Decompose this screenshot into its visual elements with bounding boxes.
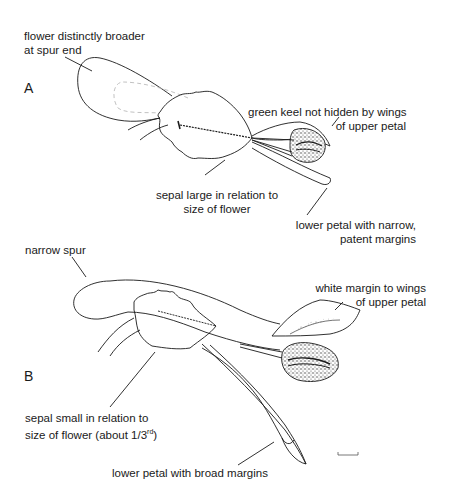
spur-b	[74, 281, 128, 319]
label-b-sepal: sepal small in relation tosize of flower…	[25, 411, 157, 442]
sepal-a	[158, 91, 252, 158]
panel-letter-a: A	[24, 80, 33, 96]
keel-b	[282, 343, 339, 382]
scale-bar	[338, 452, 358, 455]
label-a-lower-petal: lower petal with narrow,patent margins	[290, 218, 416, 246]
spur-a-inner-dashed	[114, 82, 188, 113]
sepal-b	[134, 290, 216, 349]
label-b-spur: narrow spur	[25, 243, 86, 257]
label-b-wing-margin: white margin to wingsof upper petal	[300, 281, 426, 309]
label-a-spur: flower distinctly broaderat spur end	[24, 29, 145, 57]
panel-letter-b: B	[24, 368, 33, 384]
label-b-lower-petal: lower petal with broad margins	[112, 466, 268, 480]
label-a-keel: green keel not hidden by wingsof upper p…	[248, 105, 406, 133]
label-a-sepal: sepal large in relation tosize of flower	[152, 188, 282, 216]
spur-a	[78, 58, 172, 122]
